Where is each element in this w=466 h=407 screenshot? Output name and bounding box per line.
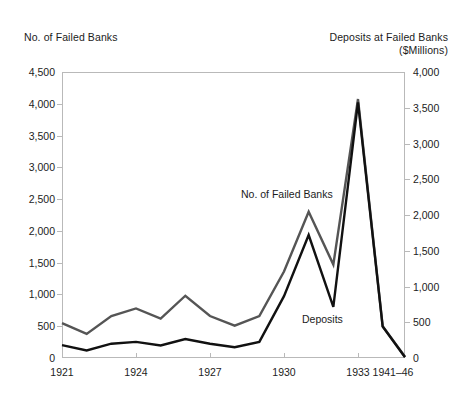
y-axis-tick-label: 4,500 bbox=[0, 67, 55, 77]
y-axis-tick-label: 2,000 bbox=[0, 226, 55, 236]
y2-axis-tick-label: 1,000 bbox=[413, 282, 439, 292]
y-axis-tick-label: 1,500 bbox=[0, 258, 55, 268]
y-axis-tick-mark bbox=[57, 167, 62, 168]
y-axis-tick-mark bbox=[57, 294, 62, 295]
y2-axis-tick-mark bbox=[405, 251, 410, 252]
left-axis-title: No. of Failed Banks bbox=[24, 31, 118, 43]
x-axis-tick-label: 1941–46 bbox=[373, 366, 414, 378]
right-axis-title-line1: Deposits at Failed Banks bbox=[329, 31, 448, 44]
y-axis-tick-label: 3,000 bbox=[0, 162, 55, 172]
y2-axis-tick-mark bbox=[405, 144, 410, 145]
x-axis-tick-mark bbox=[358, 353, 359, 358]
y2-axis-tick-label: 2,000 bbox=[413, 210, 439, 220]
y-axis-tick-label: 0 bbox=[0, 353, 55, 363]
y2-axis-tick-mark bbox=[405, 322, 410, 323]
y2-axis-tick-label: 3,000 bbox=[413, 139, 439, 149]
x-axis-tick-mark bbox=[210, 353, 211, 358]
x-axis-tick-label: 1924 bbox=[124, 366, 147, 378]
right-axis-title: Deposits at Failed Banks ($Millions) bbox=[329, 31, 448, 57]
y2-axis-tick-mark bbox=[405, 287, 410, 288]
plot-area bbox=[62, 72, 405, 358]
y2-axis-tick-label: 4,000 bbox=[413, 67, 439, 77]
y2-axis-tick-mark bbox=[405, 179, 410, 180]
right-axis-title-line2: ($Millions) bbox=[329, 44, 448, 57]
annotation-deposits: Deposits bbox=[302, 313, 343, 325]
y-axis-tick-label: 4,000 bbox=[0, 99, 55, 109]
y2-axis-tick-mark bbox=[405, 108, 410, 109]
y-axis-tick-mark bbox=[57, 326, 62, 327]
y2-axis-tick-label: 1,500 bbox=[413, 246, 439, 256]
y2-axis-tick-label: 2,500 bbox=[413, 174, 439, 184]
x-axis-tick-label: 1933 bbox=[346, 366, 369, 378]
y2-axis-tick-label: 3,500 bbox=[413, 103, 439, 113]
y-axis-tick-label: 3,500 bbox=[0, 131, 55, 141]
x-axis-tick-label: 1921 bbox=[50, 366, 73, 378]
y2-axis-tick-mark bbox=[405, 215, 410, 216]
y2-axis-tick-label: 0 bbox=[413, 353, 419, 363]
y-axis-tick-mark bbox=[57, 231, 62, 232]
x-axis-tick-mark bbox=[136, 353, 137, 358]
y-axis-tick-mark bbox=[57, 104, 62, 105]
x-axis-tick-label: 1927 bbox=[198, 366, 221, 378]
x-axis-tick-mark bbox=[284, 353, 285, 358]
y-axis-tick-label: 1,000 bbox=[0, 289, 55, 299]
y-axis-tick-mark bbox=[57, 136, 62, 137]
y-axis-tick-label: 2,500 bbox=[0, 194, 55, 204]
y-axis-tick-mark bbox=[57, 263, 62, 264]
annotation-failed-banks: No. of Failed Banks bbox=[241, 188, 333, 200]
x-axis-tick-label: 1930 bbox=[272, 366, 295, 378]
y-axis-tick-mark bbox=[57, 199, 62, 200]
y2-axis-tick-label: 500 bbox=[413, 317, 431, 327]
chart-figure: No. of Failed Banks Deposits at Failed B… bbox=[0, 0, 466, 407]
y-axis-tick-label: 500 bbox=[0, 321, 55, 331]
